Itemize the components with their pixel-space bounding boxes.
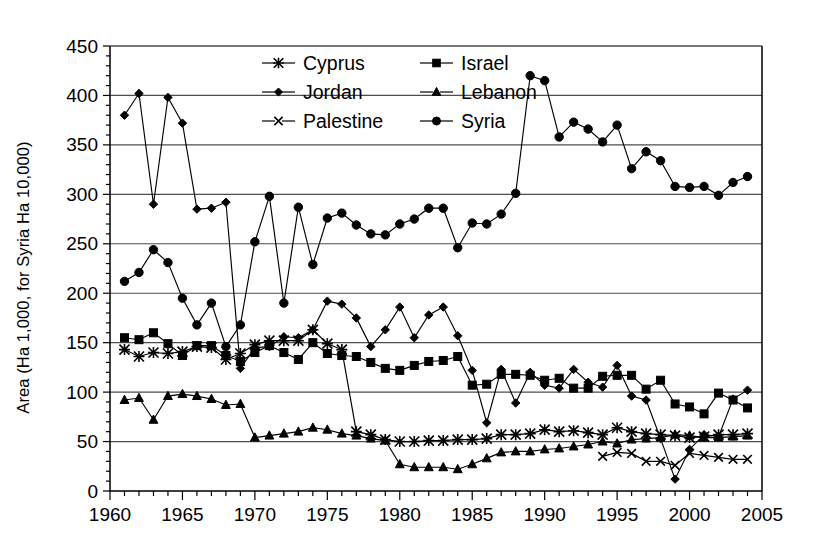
data-point-circle <box>497 210 505 218</box>
y-tick-label: 100 <box>66 382 98 403</box>
data-point-square <box>410 361 418 369</box>
data-point-square <box>149 329 157 337</box>
data-point-circle <box>352 221 360 229</box>
data-point-cross <box>274 117 282 125</box>
data-point-triangle <box>439 462 448 470</box>
data-point-circle <box>149 246 157 254</box>
data-point-circle <box>685 183 693 191</box>
data-point-square <box>570 384 578 392</box>
data-point-diamond <box>323 297 331 305</box>
data-point-square <box>338 352 346 360</box>
data-point-circle <box>555 133 563 141</box>
data-point-diamond <box>598 383 606 391</box>
data-point-square <box>512 370 520 378</box>
legend-item-palestine[interactable]: Palestine <box>262 110 383 132</box>
line-chart-svg: 050100150200250300350400450 196019651970… <box>0 0 817 555</box>
data-point-circle <box>454 244 462 252</box>
data-point-diamond <box>439 303 447 311</box>
data-point-circle <box>483 220 491 228</box>
data-point-square <box>657 376 665 384</box>
legend-item-lebanon[interactable]: Lebanon <box>420 81 537 103</box>
data-point-triangle <box>178 389 187 397</box>
legend-item-cyprus[interactable]: Cyprus <box>262 52 365 74</box>
data-point-circle <box>294 203 302 211</box>
data-point-diamond <box>135 89 143 97</box>
data-point-circle <box>193 321 201 329</box>
data-point-square <box>280 349 288 357</box>
data-point-circle <box>396 220 404 228</box>
legend-item-israel[interactable]: Israel <box>420 52 509 74</box>
series-line <box>124 330 747 442</box>
y-tick-label: 200 <box>66 283 98 304</box>
data-point-square <box>222 352 230 360</box>
data-point-asterisk <box>525 428 536 439</box>
data-series-layer <box>119 71 753 483</box>
data-point-circle <box>627 164 635 172</box>
data-point-diamond <box>671 475 679 483</box>
legend-item-jordan[interactable]: Jordan <box>262 81 363 103</box>
data-point-asterisk <box>481 433 492 444</box>
data-point-square <box>425 357 433 365</box>
legend-item-syria[interactable]: Syria <box>420 110 506 132</box>
data-point-triangle <box>395 460 404 468</box>
data-point-triangle <box>432 87 440 95</box>
data-point-square <box>599 372 607 380</box>
data-point-square <box>715 389 723 397</box>
y-tick-label: 400 <box>66 85 98 106</box>
series-syria <box>120 71 751 350</box>
data-point-square <box>628 371 636 379</box>
y-tick-label: 250 <box>66 233 98 254</box>
data-point-asterisk <box>496 429 507 440</box>
data-point-circle <box>338 209 346 217</box>
data-point-circle <box>468 219 476 227</box>
data-point-circle <box>656 157 664 165</box>
data-point-square <box>294 355 302 363</box>
x-tick-label: 2000 <box>668 504 710 525</box>
data-point-square <box>323 350 331 358</box>
data-point-diamond <box>483 419 491 427</box>
data-point-circle <box>613 121 621 129</box>
chart-figure: Area (Ha 1,000, for Syria Ha 10,000) 050… <box>0 0 817 555</box>
data-point-circle <box>120 277 128 285</box>
data-point-circle <box>280 299 288 307</box>
data-point-square <box>135 336 143 344</box>
series-line <box>124 76 747 347</box>
data-point-square <box>207 342 215 350</box>
x-tick-label: 1995 <box>596 504 638 525</box>
axis-lines <box>110 46 762 491</box>
data-point-asterisk <box>119 344 130 355</box>
data-point-circle <box>584 125 592 133</box>
data-point-circle <box>164 258 172 266</box>
data-point-square <box>396 366 404 374</box>
data-point-diamond <box>743 386 751 394</box>
data-point-circle <box>425 204 433 212</box>
y-tick-label: 150 <box>66 332 98 353</box>
data-point-triangle <box>135 393 144 401</box>
data-point-circle <box>671 182 679 190</box>
data-point-diamond <box>642 396 650 404</box>
data-point-triangle <box>743 431 752 439</box>
data-point-diamond <box>454 332 462 340</box>
data-point-square <box>367 358 375 366</box>
data-point-diamond <box>120 111 128 119</box>
data-point-diamond <box>207 204 215 212</box>
data-point-circle <box>714 191 722 199</box>
data-point-square <box>483 380 491 388</box>
data-point-asterisk <box>162 348 173 359</box>
y-tick-label: 450 <box>66 36 98 57</box>
x-tick-label: 1970 <box>234 504 276 525</box>
series-line <box>603 452 748 465</box>
data-point-circle <box>309 260 317 268</box>
legend-label: Syria <box>461 110 506 132</box>
data-point-diamond <box>222 198 230 206</box>
plot-area-wrapper: 050100150200250300350400450 196019651970… <box>0 0 817 555</box>
data-point-asterisk <box>612 422 623 433</box>
legend-label: Cyprus <box>303 52 365 74</box>
x-tick-label: 2005 <box>741 504 783 525</box>
data-point-circle <box>410 215 418 223</box>
data-point-diamond <box>468 366 476 374</box>
data-point-diamond <box>149 200 157 208</box>
data-point-diamond <box>193 205 201 213</box>
data-point-triangle <box>511 447 520 455</box>
legend-label: Lebanon <box>461 81 537 103</box>
